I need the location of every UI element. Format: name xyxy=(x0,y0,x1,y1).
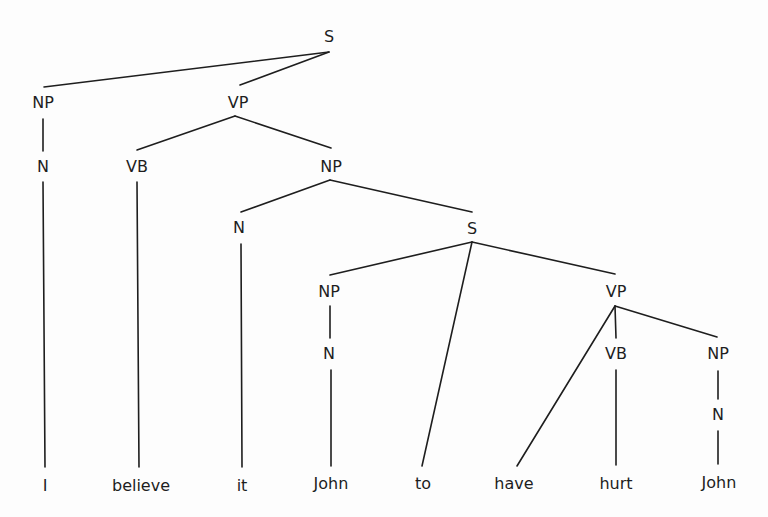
node-np-subject: NP xyxy=(32,95,54,111)
leaf-word-believe: believe xyxy=(112,478,170,494)
leaf-word-i: I xyxy=(43,478,48,494)
tree-edge xyxy=(615,306,717,337)
leaf-word-have: have xyxy=(494,476,533,492)
tree-edge xyxy=(241,244,242,467)
leaf-word-hurt: hurt xyxy=(599,476,632,492)
leaf-word-john-2: John xyxy=(702,475,737,491)
tree-edge xyxy=(137,116,235,150)
node-vb-main: VB xyxy=(126,159,148,175)
leaf-word-it: it xyxy=(237,478,248,494)
tree-edge xyxy=(330,242,472,275)
tree-edge xyxy=(422,242,472,466)
tree-edge xyxy=(43,182,45,467)
node-n-embedded: N xyxy=(323,346,335,362)
tree-edge xyxy=(137,182,139,467)
node-s-embedded: S xyxy=(467,221,477,237)
node-vb-embedded: VB xyxy=(605,346,627,362)
node-np-object: NP xyxy=(320,159,342,175)
leaf-word-john-1: John xyxy=(314,476,349,492)
tree-edge xyxy=(615,306,616,338)
tree-edges xyxy=(0,0,768,517)
node-vp-embedded: VP xyxy=(606,284,627,300)
syntax-tree-diagram: S NP VP N VB NP N S NP VP N VB NP N I be… xyxy=(0,0,768,517)
node-n-subject: N xyxy=(37,159,49,175)
tree-edge xyxy=(472,242,615,274)
node-np-embedded: NP xyxy=(318,284,340,300)
node-n-embedded-object: N xyxy=(712,407,724,423)
tree-edge xyxy=(44,52,329,87)
node-n-it: N xyxy=(233,220,245,236)
node-s-root: S xyxy=(324,29,334,45)
tree-edge xyxy=(235,116,331,148)
tree-edge xyxy=(517,306,615,466)
node-np-embedded-object: NP xyxy=(707,346,729,362)
node-vp-main: VP xyxy=(228,95,249,111)
tree-edge xyxy=(241,180,330,212)
leaf-word-to: to xyxy=(415,476,431,492)
tree-edge xyxy=(330,180,472,212)
